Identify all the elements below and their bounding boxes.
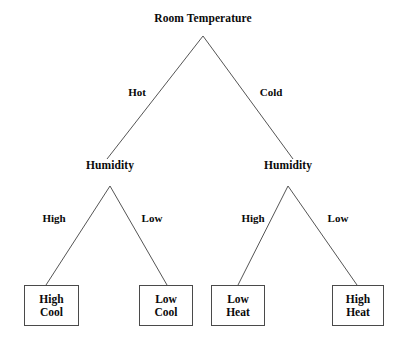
- edge-label-hot: Hot: [128, 86, 146, 98]
- edge-left-humidity-to-high-cool: [46, 186, 110, 285]
- leaf-high-cool: High Cool: [24, 285, 79, 326]
- leaf-low-cool: Low Cool: [139, 285, 193, 326]
- leaf-high-heat-line1: High: [346, 293, 370, 306]
- edge-label-low-right: Low: [328, 212, 349, 224]
- leaf-high-heat: High Heat: [332, 285, 384, 326]
- leaf-high-cool-line2: Cool: [40, 306, 63, 319]
- leaf-low-heat-line2: Heat: [226, 306, 250, 319]
- leaf-high-cool-line1: High: [39, 293, 63, 306]
- edge-left-humidity-to-low-cool: [110, 186, 167, 285]
- leaf-low-cool-line2: Cool: [155, 306, 178, 319]
- leaf-low-heat: Low Heat: [211, 285, 265, 326]
- edge-label-low-left: Low: [142, 212, 163, 224]
- leaf-high-heat-line2: Heat: [346, 306, 370, 319]
- leaf-low-cool-line1: Low: [155, 293, 177, 306]
- edge-label-high-left: High: [42, 212, 65, 224]
- root-node-room-temperature: Room Temperature: [154, 12, 252, 24]
- edge-right-humidity-to-low-heat: [238, 186, 288, 285]
- humidity-node-left: Humidity: [86, 159, 134, 171]
- humidity-node-right: Humidity: [264, 159, 312, 171]
- leaf-low-heat-line1: Low: [227, 293, 249, 306]
- edge-right-humidity-to-high-heat: [288, 186, 357, 285]
- edge-root-to-left-humidity: [107, 36, 203, 159]
- decision-tree-diagram: Room Temperature Humidity Humidity Hot C…: [0, 0, 407, 337]
- edge-label-cold: Cold: [260, 86, 283, 98]
- edge-label-high-right: High: [241, 212, 264, 224]
